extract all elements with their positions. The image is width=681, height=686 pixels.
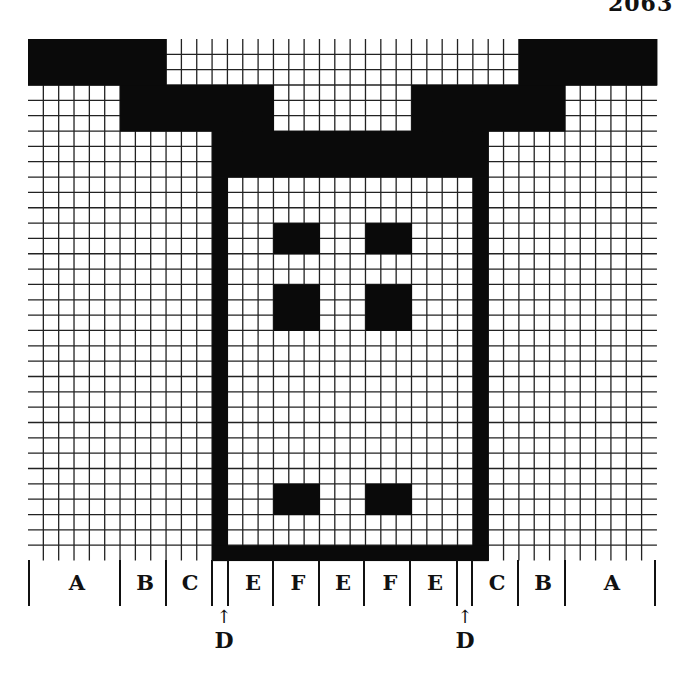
square-2-left (273, 284, 320, 331)
section-divider (227, 560, 229, 606)
section-divider (165, 560, 167, 606)
section-label-a: A (69, 570, 85, 595)
section-divider (363, 560, 365, 606)
section-label-f: F (291, 570, 306, 595)
frame-left (212, 177, 228, 561)
d-marker: ↑D (455, 608, 474, 652)
square-1-left (273, 223, 320, 254)
yoke (212, 131, 489, 178)
section-divider (211, 560, 213, 606)
knitting-pattern-chart (28, 39, 659, 563)
square-3-right (365, 484, 412, 515)
section-divider (272, 560, 274, 606)
section-label-e: E (245, 570, 261, 595)
section-label-c: C (182, 570, 199, 595)
up-arrow-icon: ↑ (214, 608, 233, 626)
section-divider (318, 560, 320, 606)
up-arrow-icon: ↑ (455, 608, 474, 626)
step-left (120, 85, 274, 132)
section-label-b: B (534, 570, 552, 595)
section-label-b: B (136, 570, 154, 595)
section-label-e: E (427, 570, 443, 595)
section-label-d: D (455, 628, 474, 652)
square-2-right (365, 284, 412, 331)
page-number-partial: 2063 (608, 0, 673, 16)
section-divider (28, 560, 30, 606)
top-band-left (28, 39, 167, 86)
section-divider (471, 560, 473, 606)
step-right (412, 85, 566, 132)
square-3-left (273, 484, 320, 515)
section-label-f: F (383, 570, 398, 595)
section-divider (119, 560, 121, 606)
square-1-right (365, 223, 412, 254)
frame-bottom (212, 545, 489, 561)
section-divider (564, 560, 566, 606)
section-divider (456, 560, 458, 606)
section-divider (517, 560, 519, 606)
section-label-d: D (214, 628, 233, 652)
frame-right (473, 177, 489, 561)
top-band-right (519, 39, 658, 86)
section-divider (409, 560, 411, 606)
section-label-c: C (489, 570, 506, 595)
d-marker: ↑D (214, 608, 233, 652)
section-divider (654, 560, 656, 606)
section-label-a: A (604, 570, 620, 595)
section-label-e: E (335, 570, 351, 595)
